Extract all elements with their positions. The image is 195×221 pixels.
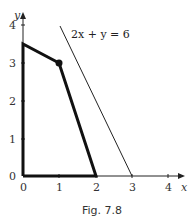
x-tick-label: 3: [129, 181, 136, 194]
x-axis-label: x: [181, 181, 188, 194]
y-axis-arrow-icon: [20, 12, 26, 19]
y-tick-label: 3: [9, 57, 16, 70]
y-tick-label: 2: [9, 95, 16, 108]
x-tick-label: 4: [165, 181, 172, 194]
x-axis-arrow-icon: [178, 173, 185, 179]
figure-canvas: 0 1 2 3 4 x 0 1 2 3 4 y 2x + y = 6 Fig. …: [0, 0, 195, 221]
y-tick-label: 0: [9, 170, 16, 183]
x-tick-label: 1: [56, 181, 63, 194]
x-tick-label: 2: [93, 181, 100, 194]
y-tick-label: 1: [9, 133, 16, 146]
constraint-line-label: 2x + y = 6: [71, 28, 130, 41]
x-tick-label: 0: [20, 181, 27, 194]
figure-caption: Fig. 7.8: [82, 204, 122, 217]
y-axis-label: y: [13, 9, 21, 22]
marked-point: [56, 60, 63, 67]
